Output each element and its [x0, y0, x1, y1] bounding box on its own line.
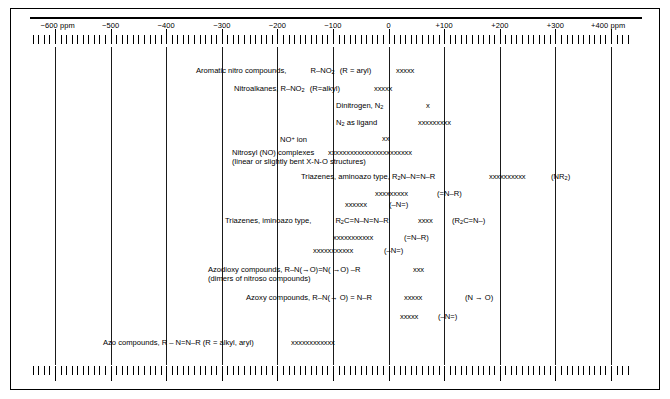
axis-tick-minor	[516, 366, 517, 375]
axis-tick-minor	[428, 35, 429, 44]
axis-tick-minor	[127, 366, 128, 375]
axis-tick-minor	[216, 366, 217, 375]
axis-tick-minor	[355, 35, 356, 44]
entry-triazene-iminoazo-marks: xxxx	[418, 216, 433, 225]
axis-tick-minor	[539, 366, 540, 375]
axis-tick-minor	[211, 366, 212, 375]
entry-triazene-iminoazo-text-a: Triazenes, iminoazo type,	[225, 216, 311, 225]
axis-tick-minor	[377, 366, 378, 375]
axis-tick-minor	[294, 35, 295, 44]
axis-tick-minor	[94, 35, 95, 44]
axis-tick-minor	[594, 35, 595, 44]
axis-tick-minor	[455, 366, 456, 375]
axis-tick-minor	[589, 35, 590, 44]
axis-tick-minor	[567, 366, 568, 375]
entry-nitroalkanes-marks: xxxxx	[374, 84, 392, 93]
gridline	[111, 47, 112, 365]
axis-tick-minor	[244, 366, 245, 375]
axis-tick-minor	[88, 35, 89, 44]
tick-band-top	[0, 28, 670, 44]
axis-tick-major	[55, 29, 56, 44]
axis-tick-minor	[372, 366, 373, 375]
axis-tick-minor	[49, 35, 50, 44]
axis-tick-minor	[316, 366, 317, 375]
axis-tick-minor	[461, 366, 462, 375]
axis-tick-minor	[327, 366, 328, 375]
axis-tick-minor	[455, 35, 456, 44]
axis-tick-minor	[594, 366, 595, 375]
axis-tick-minor	[283, 35, 284, 44]
entry-azoxy-label: Azoxy compounds, R–N(→ O) = N–R	[246, 293, 372, 302]
axis-tick-minor	[116, 35, 117, 44]
axis-tick-minor	[483, 35, 484, 44]
axis-tick-minor	[361, 366, 362, 375]
axis-tick-minor	[478, 366, 479, 375]
axis-tick-minor	[238, 35, 239, 44]
axis-tick-minor	[628, 35, 629, 44]
axis-tick-minor	[33, 35, 34, 44]
axis-tick-minor	[272, 366, 273, 375]
axis-tick-minor	[188, 35, 189, 44]
entry-no-plus-ion-text-a: NO	[280, 135, 291, 144]
entry-triazene-aminoazo-note-a: (NR	[551, 172, 565, 181]
axis-tick-minor	[161, 366, 162, 375]
axis-tick-major	[111, 366, 112, 381]
axis-tick-minor	[155, 35, 156, 44]
axis-tick-minor	[494, 366, 495, 375]
entry-nitroalkanes-sub: 2	[302, 87, 305, 93]
entry-azo-marks: xxxxxxxxxxxx	[291, 338, 335, 347]
axis-tick-minor	[511, 35, 512, 44]
axis-tick-minor	[183, 366, 184, 375]
axis-tick-minor	[150, 366, 151, 375]
axis-tick-minor	[138, 35, 139, 44]
axis-tick-minor	[383, 35, 384, 44]
entry-azo-label: Azo compounds, R – N=N–R (R = alkyl, ary…	[103, 338, 254, 347]
entry-aromatic-nitro-formula: R–NO	[310, 66, 331, 75]
axis-tick-minor	[211, 35, 212, 44]
axis-tick-major	[611, 366, 612, 381]
axis-tick-minor	[422, 35, 423, 44]
axis-tick-minor	[583, 35, 584, 44]
entry-aminoazo-n-note: (–N=)	[389, 200, 408, 209]
axis-tick-minor	[227, 366, 228, 375]
axis-tick-minor	[533, 35, 534, 44]
axis-tick-minor	[583, 366, 584, 375]
axis-tick-major	[555, 366, 556, 381]
entry-azoxy-n-marks: xxxxx	[400, 312, 418, 321]
axis-tick-minor	[311, 35, 312, 44]
axis-tick-minor	[38, 366, 39, 375]
axis-tick-minor	[177, 35, 178, 44]
axis-tick-minor	[116, 366, 117, 375]
entry-no-plus-ion-text-b: ion	[295, 135, 307, 144]
axis-tick-minor	[472, 35, 473, 44]
axis-tick-minor	[605, 35, 606, 44]
entry-aromatic-nitro-marks: xxxxx	[396, 66, 414, 75]
entry-triazene-aminoazo-note: (NR2)	[551, 172, 570, 183]
axis-tick-minor	[339, 366, 340, 375]
axis-tick-minor	[38, 35, 39, 44]
axis-tick-minor	[394, 35, 395, 44]
axis-tick-minor	[294, 366, 295, 375]
entry-iminoazo-n-marks: xxxxxxxxxxx	[313, 246, 353, 255]
axis-tick-minor	[72, 366, 73, 375]
entry-triazene-aminoazo-text-a: Triazenes, aminoazo type, R	[301, 172, 397, 181]
axis-tick-minor	[66, 366, 67, 375]
axis-tick-minor	[127, 35, 128, 44]
axis-tick-minor	[511, 366, 512, 375]
axis-tick-minor	[433, 35, 434, 44]
axis-tick-minor	[628, 366, 629, 375]
nmr-shift-chart: −600 ppm−500−400−300−200−1000+100+200+30…	[0, 0, 670, 399]
axis-tick-minor	[483, 366, 484, 375]
entry-azoxy-n-note: (–N=)	[438, 312, 457, 321]
axis-tick-minor	[61, 35, 62, 44]
axis-tick-minor	[578, 366, 579, 375]
axis-tick-minor	[77, 35, 78, 44]
axis-tick-minor	[450, 35, 451, 44]
axis-tick-minor	[205, 366, 206, 375]
axis-tick-minor	[105, 35, 106, 44]
axis-tick-minor	[544, 366, 545, 375]
entry-azodioxy-text-a: Azodioxy compounds, R–N(→O)=N( →O) –R	[208, 265, 361, 274]
entry-triazene-iminoazo-note: (R2C=N–)	[452, 216, 485, 227]
axis-tick-minor	[316, 35, 317, 44]
axis-tick-minor	[339, 35, 340, 44]
